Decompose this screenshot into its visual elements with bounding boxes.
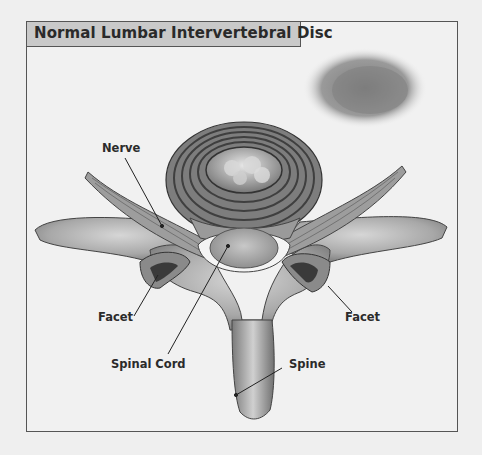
label-nerve: Nerve — [102, 141, 140, 155]
nucleus-pulposus — [206, 147, 282, 193]
label-spinal-cord: Spinal Cord — [111, 357, 186, 371]
label-facet-left: Facet — [98, 310, 133, 324]
label-facet-right: Facet — [345, 310, 380, 324]
vertebra-illustration — [0, 0, 482, 455]
spinous-process — [232, 320, 274, 419]
label-spine: Spine — [289, 357, 325, 371]
disc-photo-inset — [303, 48, 427, 128]
diagram-title: Normal Lumbar Intervertebral Disc — [26, 21, 301, 47]
